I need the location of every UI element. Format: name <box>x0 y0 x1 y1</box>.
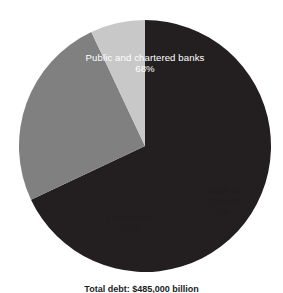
pie-slices <box>19 20 271 272</box>
pie-chart-svg <box>0 0 283 293</box>
pie-chart-figure: Public and chartered banks 68% Foreigner… <box>0 0 283 293</box>
chart-caption: Total debt: $485,000 billion <box>0 284 283 293</box>
